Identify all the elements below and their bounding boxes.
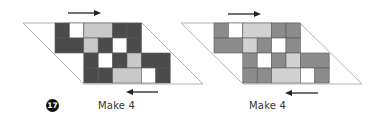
patch-cell-white [272,38,286,53]
patch-cell-dark [98,68,112,83]
patch-cell-white [300,68,314,83]
layout-left [23,10,203,95]
patch-cell-white [257,53,271,68]
patch-cell-light [272,68,301,83]
patch-cell-dark [300,53,329,68]
top-arrow-right-head [94,10,101,16]
patch-cell-dark [315,68,329,83]
patch-cell-dark [113,53,127,68]
patch-cell-dark [243,53,257,68]
patch-cell-dark [214,38,243,53]
caption-left: Make 4 [98,100,135,111]
step-number: 17 [47,101,57,110]
bottom-arrow-left-head [126,89,133,95]
patch-cell-dark [272,53,286,68]
patch-cell-dark [257,38,271,53]
patch-cell-dark [84,68,98,83]
patch-cell-light [84,38,98,53]
quilt-layout-figure [0,0,381,114]
patch-cell-dark [127,23,141,38]
patch-cell-dark [214,23,228,38]
patch-cell-white [69,23,83,38]
patch-cell-dark [127,38,141,53]
patch-cell-dark [286,23,300,38]
patch-cell-dark [113,23,127,38]
top-arrow-right-head [254,11,261,17]
patch-cell-dark [84,53,98,68]
patch-cell-light [127,53,141,68]
patch-cell-light [243,38,257,53]
patch-cell-dark [272,23,286,38]
patch-cell-dark [141,53,170,68]
patch-cell-white [98,53,112,68]
patch-cell-dark [286,38,300,53]
step-number-badge: 17 [46,99,59,112]
patch-cell-dark [55,23,69,38]
layout-right [181,11,362,96]
patch-cell-light [243,23,272,38]
patch-cell-dark [243,68,257,83]
bottom-arrow-left-head [285,90,292,96]
patch-cell-dark [55,38,84,53]
patch-cell-dark [98,38,112,53]
patch-cell-white [113,38,127,53]
patch-cell-light [113,68,142,83]
caption-right: Make 4 [249,100,286,111]
patch-cell-dark [257,68,271,83]
patch-cell-light [84,23,113,38]
patch-cell-white [228,23,242,38]
patch-cell-dark [156,68,170,83]
patch-cell-light [286,53,300,68]
patch-cell-white [141,68,155,83]
